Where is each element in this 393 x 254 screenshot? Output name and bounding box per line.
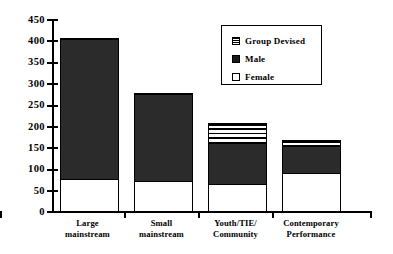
y-tick-label-450: 450 xyxy=(1,15,45,26)
white-swatch-icon xyxy=(232,73,240,81)
legend-label-male: Male xyxy=(245,54,265,64)
category-label-contemporary-performance: Contemporary Performance xyxy=(265,218,357,239)
y-tick-label-100: 100 xyxy=(1,164,45,175)
striped-swatch-icon xyxy=(232,37,240,45)
stacked-bar-chart: 450 400 350 300 250 200 150 100 50 0 xyxy=(0,0,393,254)
category-label-line-1: Contemporary xyxy=(265,218,357,229)
category-label-large-mainstream: Large mainstream xyxy=(45,218,130,239)
x-tick-1 xyxy=(124,211,126,218)
bar-segment-male xyxy=(135,94,192,182)
bar-contemporary-performance xyxy=(282,140,341,212)
legend-item-female: Female xyxy=(232,69,321,85)
plot-area xyxy=(52,20,372,212)
category-label-line-2: mainstream xyxy=(45,229,130,240)
y-tick-label-200: 200 xyxy=(1,122,45,133)
category-label-line-2: mainstream xyxy=(119,229,204,240)
y-tick-label-150: 150 xyxy=(1,143,45,154)
x-tick-2 xyxy=(198,211,200,218)
x-tick-3 xyxy=(272,211,274,218)
bar-segment-male xyxy=(209,143,266,185)
bar-segment-female xyxy=(61,180,118,211)
y-tick-label-0: 0 xyxy=(1,207,45,218)
y-axis-labels: 450 400 350 300 250 200 150 100 50 0 xyxy=(0,0,45,254)
bar-youth-tie-community xyxy=(208,123,267,212)
legend-item-male: Male xyxy=(232,51,321,67)
category-label-small-mainstream: Small mainstream xyxy=(119,218,204,239)
y-tick-label-50: 50 xyxy=(1,186,45,197)
y-tick-label-400: 400 xyxy=(1,36,45,47)
bar-segment-group-devised xyxy=(209,124,266,143)
y-tick-label-350: 350 xyxy=(1,57,45,68)
bar-segment-male xyxy=(61,39,118,180)
legend-label-group-devised: Group Devised xyxy=(245,36,305,46)
bar-segment-male xyxy=(283,146,340,174)
y-tick-label-250: 250 xyxy=(1,100,45,111)
bar-large-mainstream xyxy=(60,38,119,212)
solid-dark-swatch-icon xyxy=(232,55,240,63)
bar-segment-female xyxy=(135,182,192,211)
bar-segment-female xyxy=(209,185,266,211)
bar-segment-female xyxy=(283,174,340,211)
chart-legend: Group Devised Male Female xyxy=(221,25,322,85)
x-tick-4 xyxy=(370,211,372,218)
category-label-line-2: Performance xyxy=(265,229,357,240)
y-tick-label-300: 300 xyxy=(1,79,45,90)
bar-small-mainstream xyxy=(134,93,193,212)
category-label-line-1: Large xyxy=(45,218,130,229)
legend-label-female: Female xyxy=(245,72,274,82)
category-label-line-1: Small xyxy=(119,218,204,229)
legend-item-group-devised: Group Devised xyxy=(232,33,321,49)
